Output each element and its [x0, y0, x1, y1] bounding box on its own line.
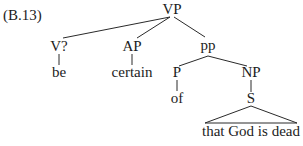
leaf-of: of [171, 91, 184, 106]
example-number: (B.13) [3, 8, 42, 23]
triangle-s [205, 106, 297, 123]
edge-vp-pp [174, 17, 205, 37]
edge-pp-p [179, 56, 208, 66]
leaf-certain: certain [112, 65, 153, 80]
node-s: S [247, 91, 255, 106]
node-ap: AP [122, 39, 141, 54]
node-p: P [173, 65, 181, 80]
syntax-tree-diagram: (B.13) VP V? AP pp be certain P NP of S … [0, 0, 303, 146]
leaf-be: be [52, 65, 66, 80]
node-v: V? [50, 39, 68, 54]
leaf-clause: that God is dead [202, 124, 300, 139]
node-vp: VP [162, 2, 181, 17]
node-pp: pp [201, 38, 216, 53]
node-np: NP [241, 65, 260, 80]
